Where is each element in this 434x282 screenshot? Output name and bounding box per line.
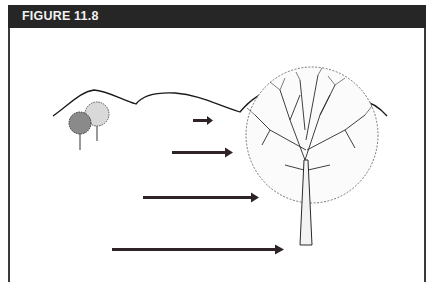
large-tree <box>246 67 378 245</box>
diagram-scene <box>0 0 434 282</box>
arrow-3 <box>143 193 259 203</box>
arrow-4 <box>112 245 284 255</box>
arrow-1 <box>193 116 213 125</box>
distant-trees <box>69 102 109 150</box>
arrow-2 <box>172 148 233 158</box>
